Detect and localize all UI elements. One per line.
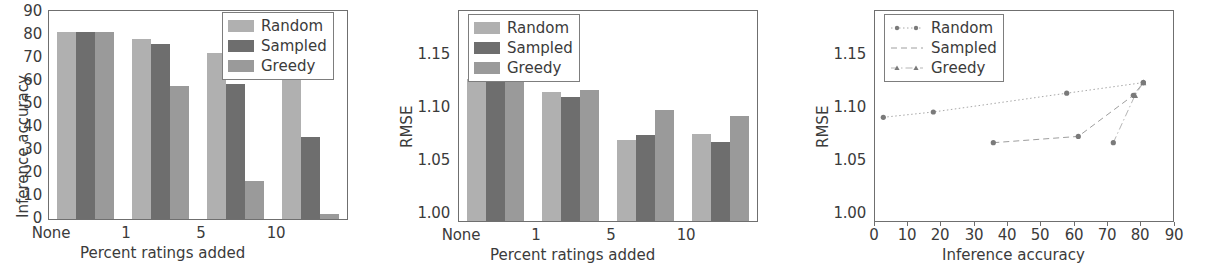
y-tick-label: 20 bbox=[2, 163, 42, 181]
chart-panel-rmse-bar: RMSE 1.15 1.10 1.05 1.00 bbox=[380, 0, 792, 272]
series-line-greedy bbox=[1113, 83, 1143, 143]
legend-swatch-greedy bbox=[474, 62, 500, 74]
x-tick-label: None bbox=[426, 226, 496, 244]
data-point-greedy bbox=[1111, 140, 1116, 145]
bar-random bbox=[542, 92, 561, 221]
bar-random bbox=[692, 134, 711, 221]
x-axis-label-inference-accuracy: Inference accuracy bbox=[942, 246, 1085, 264]
bar-sampled bbox=[561, 97, 580, 221]
figure-row: Inference accuracy 90 80 70 60 50 40 30 … bbox=[0, 0, 1206, 272]
y-tick-label: 30 bbox=[2, 140, 42, 158]
x-tick-label: 90 bbox=[1154, 226, 1194, 244]
legend-label-sampled: Sampled bbox=[261, 39, 327, 54]
legend-item-sampled: Sampled bbox=[228, 37, 327, 55]
legend-item-random: Random bbox=[474, 19, 573, 37]
legend-line-random bbox=[890, 22, 924, 34]
legend-swatch-greedy bbox=[228, 60, 254, 72]
y-tick-label: 1.05 bbox=[818, 151, 866, 169]
legend-rmse-vs-accuracy: Random Sampled Greedy bbox=[884, 14, 1004, 82]
bar-sampled bbox=[486, 79, 505, 221]
legend-label-random: Random bbox=[261, 19, 323, 34]
legend-swatch-random bbox=[474, 22, 500, 34]
chart-panel-rmse-vs-accuracy: RMSE 1.15 1.10 1.05 1.00 bbox=[792, 0, 1206, 272]
y-tick-label: 1.10 bbox=[818, 98, 866, 116]
legend-rmse-bar: Random Sampled Greedy bbox=[468, 14, 580, 82]
data-point-random bbox=[881, 115, 886, 120]
x-tick-label: 10 bbox=[241, 224, 311, 242]
series-line-random bbox=[883, 83, 1143, 118]
legend-label-random: Random bbox=[931, 21, 993, 36]
x-axis-label-percent-ratings-added: Percent ratings added bbox=[490, 246, 655, 264]
legend-item-sampled: Sampled bbox=[474, 39, 573, 57]
x-axis-label-percent-ratings-added: Percent ratings added bbox=[80, 244, 245, 262]
bar-sampled bbox=[151, 44, 170, 219]
legend-line-sampled bbox=[890, 42, 924, 54]
legend-line-greedy bbox=[890, 62, 924, 74]
bar-greedy bbox=[655, 110, 674, 221]
y-tick-label: 50 bbox=[2, 94, 42, 112]
legend-inference-accuracy: Random Sampled Greedy bbox=[222, 12, 334, 80]
bar-greedy bbox=[95, 32, 114, 219]
x-tick-label: 1 bbox=[91, 224, 161, 242]
y-tick-label: 60 bbox=[2, 71, 42, 89]
data-point-random bbox=[931, 109, 936, 114]
bar-random bbox=[467, 79, 486, 221]
y-tick-label: 1.00 bbox=[818, 204, 866, 222]
bar-greedy bbox=[730, 116, 749, 221]
legend-swatch-random bbox=[228, 20, 254, 32]
bar-greedy bbox=[580, 90, 599, 221]
legend-label-random: Random bbox=[507, 21, 569, 36]
legend-item-greedy: Greedy bbox=[474, 59, 573, 77]
legend-item-greedy: Greedy bbox=[890, 59, 997, 77]
data-point-sampled bbox=[1076, 134, 1081, 139]
bar-greedy bbox=[245, 181, 264, 220]
x-tick-label: 5 bbox=[576, 226, 646, 244]
y-tick-label: 80 bbox=[2, 25, 42, 43]
legend-item-sampled: Sampled bbox=[890, 39, 997, 57]
bar-greedy bbox=[320, 214, 339, 219]
y-tick-label: 40 bbox=[2, 117, 42, 135]
chart-panel-inference-accuracy: Inference accuracy 90 80 70 60 50 40 30 … bbox=[0, 0, 380, 272]
legend-item-random: Random bbox=[228, 17, 327, 35]
y-tick-label: 1.00 bbox=[402, 204, 450, 222]
bar-random bbox=[282, 78, 301, 219]
bar-sampled bbox=[76, 32, 95, 219]
legend-swatch-sampled bbox=[474, 42, 500, 54]
x-tick-label: 10 bbox=[651, 226, 721, 244]
data-point-random bbox=[1064, 91, 1069, 96]
x-tick-label: 5 bbox=[166, 224, 236, 242]
bar-sampled bbox=[226, 84, 245, 219]
legend-label-greedy: Greedy bbox=[931, 61, 985, 76]
legend-label-greedy: Greedy bbox=[507, 61, 561, 76]
y-tick-label: 1.15 bbox=[818, 45, 866, 63]
y-tick-label: 1.10 bbox=[402, 98, 450, 116]
legend-swatch-sampled bbox=[228, 40, 254, 52]
bar-sampled bbox=[636, 135, 655, 221]
legend-label-sampled: Sampled bbox=[931, 41, 997, 56]
bar-sampled bbox=[301, 137, 320, 219]
legend-item-greedy: Greedy bbox=[228, 57, 327, 75]
y-tick-label: 1.05 bbox=[402, 151, 450, 169]
y-tick-label: 70 bbox=[2, 48, 42, 66]
bar-sampled bbox=[711, 142, 730, 222]
bar-greedy bbox=[505, 79, 524, 221]
legend-label-greedy: Greedy bbox=[261, 59, 315, 74]
legend-item-random: Random bbox=[890, 19, 997, 37]
bar-random bbox=[132, 39, 151, 219]
x-tick-label: None bbox=[16, 224, 86, 242]
x-tick-label: 1 bbox=[501, 226, 571, 244]
bar-greedy bbox=[170, 86, 189, 219]
bar-random bbox=[617, 140, 636, 221]
bar-random bbox=[57, 32, 76, 219]
legend-label-sampled: Sampled bbox=[507, 41, 573, 56]
data-point-sampled bbox=[991, 140, 996, 145]
y-tick-label: 90 bbox=[2, 2, 42, 20]
y-tick-label: 1.15 bbox=[402, 45, 450, 63]
y-tick-label: 10 bbox=[2, 186, 42, 204]
